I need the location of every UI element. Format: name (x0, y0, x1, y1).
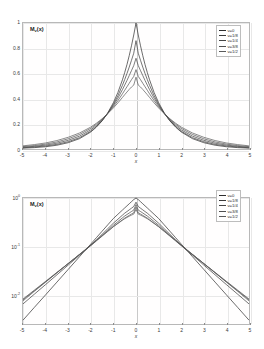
y-tick-label: 0 (0, 147, 20, 153)
y-tick-label: 1 (0, 19, 20, 25)
curve-linear-2 (23, 58, 249, 147)
y-tick-label: 0.6 (0, 70, 20, 76)
x-tick-label: -3 (65, 327, 69, 333)
x-tick-label: -1 (111, 152, 115, 158)
x-tick-mark (227, 148, 228, 150)
x-tick-mark (159, 323, 160, 325)
legend-line-swatch (219, 205, 226, 206)
x-tick-mark (90, 323, 91, 325)
legend-linear: ν=0ν=1/8ν=1/4ν=3/8ν=1/2 (216, 25, 241, 57)
legend-line-swatch (219, 46, 226, 47)
x-axis-label-linear: x (135, 158, 138, 164)
legend-label: ν=1/2 (228, 214, 238, 219)
legend-line-swatch (219, 30, 226, 31)
legend-line-swatch (219, 35, 226, 36)
x-tick-label: -5 (20, 327, 24, 333)
y-tick-label: 100 (0, 193, 20, 201)
chart-panel-linear: -5-4-3-2-1012345 00.20.40.60.81 Mν(x) x … (0, 0, 264, 174)
x-tick-mark (227, 323, 228, 325)
legend-line-swatch (219, 211, 226, 212)
x-tick-mark (22, 148, 23, 150)
x-tick-mark (250, 148, 251, 150)
x-tick-mark (136, 323, 137, 325)
gridline-vertical (251, 198, 252, 324)
x-tick-mark (204, 148, 205, 150)
x-tick-label: -4 (43, 152, 47, 158)
x-tick-label: 1 (157, 152, 160, 158)
x-tick-label: 3 (203, 152, 206, 158)
chart-panel-log: -5-4-3-2-1012345 10010-110-2 Mν(x) x ν=0… (0, 175, 264, 349)
x-tick-label: 2 (180, 152, 183, 158)
y-tick-label: 0.8 (0, 45, 20, 51)
x-tick-label: -2 (88, 327, 92, 333)
x-tick-label: 2 (180, 327, 183, 333)
x-tick-mark (45, 148, 46, 150)
legend-log: ν=0ν=1/8ν=1/4ν=3/8ν=1/2 (216, 190, 241, 222)
x-tick-mark (113, 323, 114, 325)
legend-line-swatch (219, 195, 226, 196)
curve-log-4 (23, 209, 249, 300)
x-tick-mark (68, 323, 69, 325)
legend-line-swatch (219, 200, 226, 201)
x-tick-label: 3 (203, 327, 206, 333)
figure-container: -5-4-3-2-1012345 00.20.40.60.81 Mν(x) x … (0, 0, 264, 349)
x-tick-label: 5 (249, 152, 252, 158)
legend-item: ν=1/2 (219, 49, 238, 54)
x-tick-mark (159, 148, 160, 150)
legend-label: ν=1/2 (228, 49, 238, 54)
x-tick-mark (136, 148, 137, 150)
curve-linear-3 (23, 70, 249, 147)
x-tick-mark (113, 148, 114, 150)
legend-line-swatch (219, 51, 226, 52)
x-tick-label: -4 (43, 327, 47, 333)
x-tick-mark (182, 148, 183, 150)
curve-linear-4 (23, 77, 249, 146)
y-tick-label: 10-2 (0, 292, 20, 300)
x-tick-mark (90, 148, 91, 150)
x-tick-mark (204, 323, 205, 325)
x-tick-mark (45, 323, 46, 325)
x-tick-label: -5 (20, 152, 24, 158)
legend-item: ν=1/2 (219, 214, 238, 219)
x-tick-mark (182, 323, 183, 325)
x-tick-label: -3 (65, 152, 69, 158)
x-tick-label: 4 (226, 327, 229, 333)
x-tick-label: -2 (88, 152, 92, 158)
y-axis-label-log: Mν(x) (30, 201, 44, 207)
x-tick-mark (250, 323, 251, 325)
x-tick-mark (22, 323, 23, 325)
legend-line-swatch (219, 40, 226, 41)
y-tick-label: 0.2 (0, 121, 20, 127)
y-tick-label: 10-1 (0, 242, 20, 250)
legend-line-swatch (219, 216, 226, 217)
x-tick-label: -1 (111, 327, 115, 333)
gridline-vertical (251, 23, 252, 149)
x-tick-label: 4 (226, 152, 229, 158)
y-tick-label: 0.4 (0, 96, 20, 102)
x-axis-label-log: x (135, 333, 138, 339)
x-tick-label: 5 (249, 327, 252, 333)
x-tick-mark (68, 148, 69, 150)
y-axis-label-linear: Mν(x) (30, 26, 44, 32)
x-tick-label: 1 (157, 327, 160, 333)
